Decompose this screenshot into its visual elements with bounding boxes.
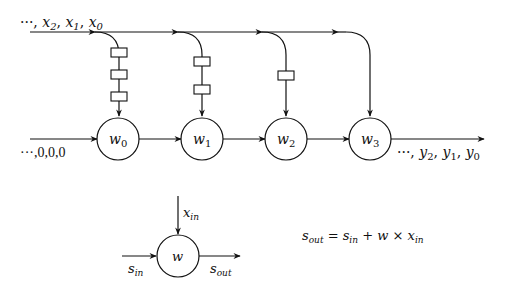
delay-box xyxy=(111,92,127,101)
s-in-label: sin xyxy=(128,261,144,278)
delay-box xyxy=(194,85,210,94)
svg-text:w: w xyxy=(172,249,183,264)
cell-w3: w3 xyxy=(349,118,391,160)
cell-w1: w1 xyxy=(181,118,223,160)
delay-box xyxy=(111,70,127,79)
branch-3 xyxy=(346,32,370,116)
input-s-label: ···,0,0,0 xyxy=(20,145,66,160)
output-y-label: ···, y2, y1, y0 xyxy=(397,144,480,162)
x-bus xyxy=(30,32,370,116)
s-out-label: sout xyxy=(210,261,232,278)
cell-w2: w2 xyxy=(265,118,307,160)
delay-box xyxy=(278,71,294,80)
input-x-label: ···, x2, x1, x0 xyxy=(20,14,104,32)
cell-w0: w0 xyxy=(97,118,139,160)
x-in-label: xin xyxy=(183,205,199,222)
equation: sout = sin + w × xin xyxy=(302,228,424,245)
delay-box xyxy=(194,57,210,66)
systolic-diagram: ···, x2, x1, x0 ···,0,0,0 w0 xyxy=(0,0,507,293)
cell-detail: w xin sin sout xyxy=(122,196,240,278)
branch-1 xyxy=(178,32,202,116)
delay-box xyxy=(111,48,127,57)
